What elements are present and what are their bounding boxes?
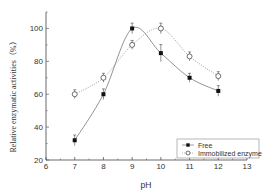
y-tick-label: 60 [34, 90, 43, 99]
immobilized-data-point [158, 26, 163, 31]
immobilized-data-point [216, 74, 221, 79]
open-circle-icon [186, 151, 190, 155]
immobilized-data-point [187, 54, 192, 59]
x-tick-label: 12 [214, 162, 223, 171]
free-curve [75, 27, 219, 140]
free-data-point [159, 51, 163, 55]
legend-label-free: Free [198, 142, 213, 149]
x-tick-label: 10 [156, 162, 165, 171]
x-tick-label: 11 [185, 162, 194, 171]
immobilized-data-point [130, 42, 135, 47]
x-tick-label: 8 [101, 162, 106, 171]
free-data-point [73, 138, 77, 142]
free-data-point [130, 26, 134, 30]
fitted-curves [75, 27, 219, 140]
x-tick-label: 6 [44, 162, 49, 171]
free-data-point [101, 92, 105, 96]
x-axis-label: pH [141, 180, 152, 190]
ph-activity-chart: 67891011121320406080100 pH Relative enzy… [0, 0, 263, 196]
free-data-point [216, 89, 220, 93]
immobilized-curve [75, 28, 219, 94]
x-tick-label: 13 [243, 162, 252, 171]
y-tick-label: 100 [30, 24, 44, 33]
x-tick-label: 7 [72, 162, 77, 171]
y-tick-label: 80 [34, 57, 43, 66]
filled-square-icon [186, 143, 189, 146]
legend-label-immobilized: Immobilized enzyme [198, 150, 262, 158]
y-axis-label: Relative enzymatic activities（%） [9, 37, 18, 152]
y-tick-label: 40 [34, 123, 43, 132]
free-data-point [188, 76, 192, 80]
y-tick-label: 20 [34, 156, 43, 165]
immobilized-data-point [72, 92, 77, 97]
legend: Free Immobilized enzyme [177, 139, 262, 158]
x-tick-label: 9 [130, 162, 135, 171]
immobilized-data-point [101, 75, 106, 80]
